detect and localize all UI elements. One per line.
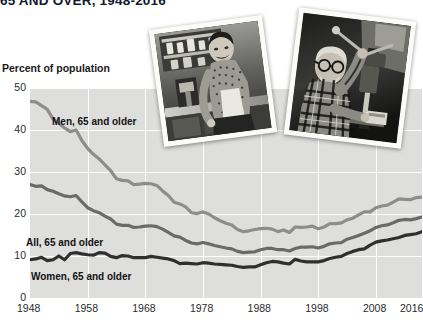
x-tick-label: 1968: [132, 302, 155, 314]
photo-man-frame: [289, 13, 411, 143]
y-axis-caption: Percent of population: [2, 62, 110, 74]
x-tick-label: 2008: [363, 302, 386, 314]
photo-woman-image: [154, 21, 271, 142]
y-tick-label: 30: [0, 165, 26, 177]
series-label-all: All, 65 and older: [26, 237, 103, 248]
x-tick-label: 1998: [305, 302, 328, 314]
x-tick-label: 1978: [190, 302, 213, 314]
series-label-women: Women, 65 and older: [31, 271, 131, 282]
y-tick-label: 50: [0, 81, 26, 93]
y-tick-label: 40: [0, 123, 26, 135]
y-tick-label: 10: [0, 249, 26, 261]
x-tick-label: 1958: [75, 302, 98, 314]
page-title: 65 AND OVER, 1948-2016: [0, 0, 166, 8]
photo-woman: [149, 15, 277, 147]
series-label-men: Men, 65 and older: [52, 116, 136, 127]
x-tick-label: 1948: [17, 302, 40, 314]
x-tick-label: 2016: [400, 302, 423, 314]
photo-man: [284, 7, 417, 148]
y-tick-label: 20: [0, 207, 26, 219]
photo-man-image: [289, 13, 411, 143]
photo-woman-frame: [154, 21, 271, 142]
x-tick-label: 1988: [248, 302, 271, 314]
